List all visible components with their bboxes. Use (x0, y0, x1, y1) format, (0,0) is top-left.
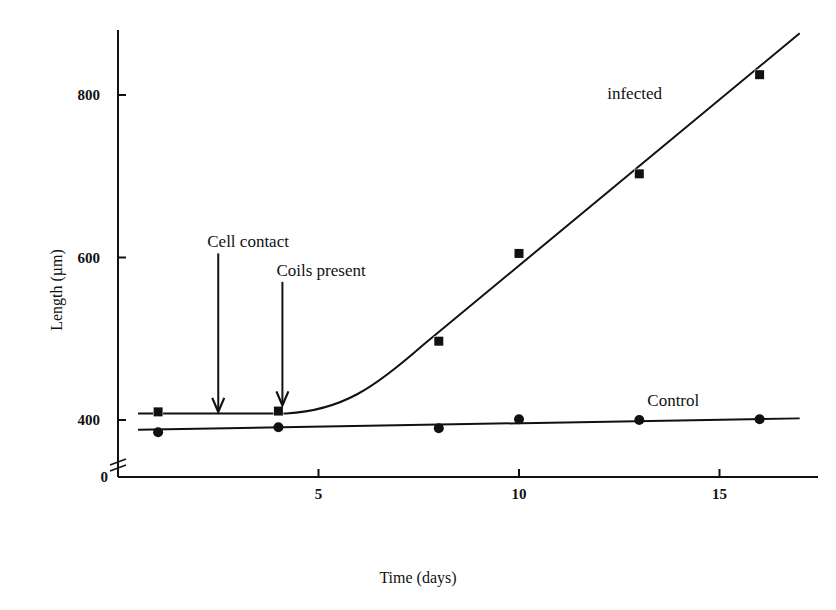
square-marker-icon (154, 407, 163, 416)
square-marker-icon (635, 169, 644, 178)
y-tick-label: 400 (78, 412, 101, 428)
y-tick-label: 600 (78, 250, 101, 266)
ticks: 510150400600800 (78, 87, 728, 502)
y-tick-label: 800 (78, 87, 101, 103)
x-axis-label: Time (days) (379, 569, 456, 587)
square-marker-icon (515, 249, 524, 258)
annotation-label: Coils present (276, 261, 366, 280)
circle-marker-icon (273, 422, 283, 432)
chart: 510150400600800 infectedControl Cell con… (0, 0, 836, 610)
series-label-infected: infected (607, 84, 662, 103)
annotations: Cell contactCoils present (207, 232, 366, 411)
square-marker-icon (274, 407, 283, 416)
control-line (138, 418, 800, 429)
x-tick-label: 10 (512, 486, 527, 502)
circle-marker-icon (434, 423, 444, 433)
circle-marker-icon (514, 414, 524, 424)
infected-line (138, 33, 800, 413)
circle-marker-icon (634, 415, 644, 425)
x-tick-label: 15 (712, 486, 727, 502)
y-tick-label: 0 (101, 469, 109, 485)
axes (110, 30, 818, 477)
series-label-control: Control (647, 391, 699, 410)
y-axis-label: Length (µm) (48, 249, 66, 331)
circle-marker-icon (153, 427, 163, 437)
x-tick-label: 5 (315, 486, 323, 502)
circle-marker-icon (755, 414, 765, 424)
annotation-label: Cell contact (207, 232, 289, 251)
square-marker-icon (434, 337, 443, 346)
square-marker-icon (755, 70, 764, 79)
